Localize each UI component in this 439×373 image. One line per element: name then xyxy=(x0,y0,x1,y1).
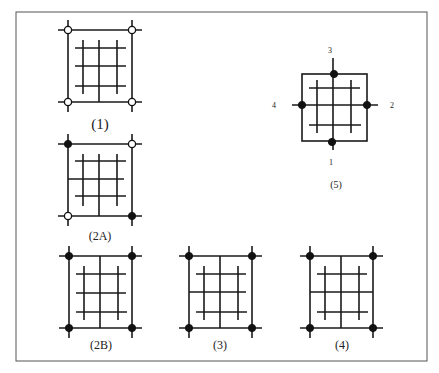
open-node-icon xyxy=(64,98,71,105)
filled-node-icon xyxy=(128,324,135,331)
filled-node-icon xyxy=(128,212,135,219)
panel-caption: (2A) xyxy=(89,229,112,243)
open-node-icon xyxy=(128,98,135,105)
filled-node-icon xyxy=(248,324,255,331)
filled-node-icon xyxy=(128,252,135,259)
side-label-top: 3 xyxy=(328,46,332,55)
open-node-icon xyxy=(64,26,71,33)
filled-node-icon xyxy=(306,324,313,331)
filled-node-icon xyxy=(369,252,376,259)
side-label-right: 2 xyxy=(390,101,394,110)
filled-node-icon xyxy=(65,324,72,331)
filled-node-icon xyxy=(185,324,192,331)
open-node-icon xyxy=(128,140,135,147)
panel-caption: (4) xyxy=(335,338,349,352)
panel-4: (4) xyxy=(300,246,383,352)
panel-caption: (3) xyxy=(213,338,227,352)
panel-caption: (2B) xyxy=(90,338,112,352)
side-label-left: 4 xyxy=(272,101,276,110)
filled-node-icon xyxy=(306,252,313,259)
filled-node-icon xyxy=(369,324,376,331)
open-node-icon xyxy=(64,212,71,219)
filled-node-icon xyxy=(185,252,192,259)
filled-node-icon xyxy=(363,101,370,108)
outer-frame xyxy=(16,12,427,361)
diagram-canvas: (1) (2A) (2B) xyxy=(0,0,439,373)
panel-3: (3) xyxy=(179,246,262,352)
filled-node-icon xyxy=(298,101,305,108)
panel-2a: (2A) xyxy=(58,134,142,243)
filled-node-icon xyxy=(65,252,72,259)
panel-5: 3 4 2 1 (5) xyxy=(272,46,394,191)
panel-caption: (1) xyxy=(91,116,109,133)
panel-1: (1) xyxy=(58,20,142,133)
filled-node-icon xyxy=(64,140,71,147)
filled-node-icon xyxy=(328,138,335,145)
filled-node-icon xyxy=(248,252,255,259)
side-label-bottom: 1 xyxy=(329,158,333,167)
open-node-icon xyxy=(128,26,135,33)
panel-caption: (5) xyxy=(330,179,342,191)
filled-node-icon xyxy=(330,70,337,77)
panel-2b: (2B) xyxy=(59,246,142,352)
